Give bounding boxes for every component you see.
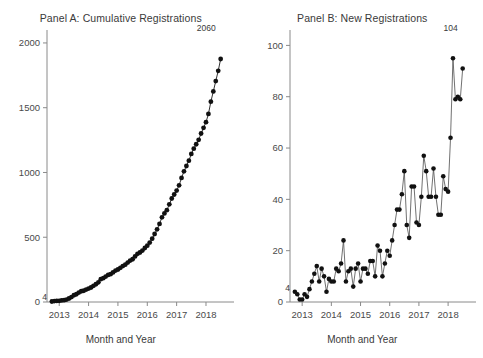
y-tick-label: 100	[267, 40, 283, 51]
data-point	[309, 279, 314, 284]
point-annotation: 2060	[197, 23, 216, 33]
data-point	[355, 261, 360, 266]
x-tick-label: 2013	[291, 309, 312, 320]
data-point	[150, 236, 155, 241]
data-point	[152, 232, 157, 237]
x-tick-label: 2018	[195, 309, 216, 320]
data-point	[201, 125, 206, 130]
data-point	[167, 202, 172, 207]
data-point	[213, 79, 218, 84]
panel-a-plot: 0500100015002000201320142015201620172018…	[0, 0, 241, 358]
x-tick-label: 2015	[349, 309, 370, 320]
y-tick-label: 80	[272, 91, 283, 102]
data-point	[164, 208, 169, 213]
data-point	[169, 196, 174, 201]
data-point	[353, 266, 358, 271]
data-point	[186, 158, 191, 163]
y-tick-label: 20	[272, 245, 283, 256]
panel-a: Panel A: Cumulative Registrations 050010…	[0, 0, 242, 358]
data-point	[204, 120, 209, 125]
data-point	[174, 188, 179, 193]
data-point	[199, 131, 204, 136]
data-point	[402, 169, 407, 174]
y-tick-label: 1000	[19, 167, 40, 178]
data-point	[382, 261, 387, 266]
data-point	[157, 222, 162, 227]
data-point	[387, 254, 392, 259]
data-point	[211, 89, 216, 94]
data-point	[421, 153, 426, 158]
data-point	[389, 238, 394, 243]
data-point	[404, 223, 409, 228]
data-point	[416, 223, 421, 228]
data-point	[179, 176, 184, 181]
data-point	[304, 295, 309, 300]
data-point	[206, 112, 211, 117]
data-point	[295, 292, 300, 297]
data-point	[431, 166, 436, 171]
data-point	[343, 279, 348, 284]
data-point	[392, 223, 397, 228]
point-annotation: 4	[42, 292, 47, 302]
data-point	[350, 284, 355, 289]
data-point	[380, 274, 385, 279]
data-point	[433, 194, 438, 199]
y-tick-label: 1500	[19, 102, 40, 113]
data-point	[218, 57, 223, 62]
data-point	[375, 243, 380, 248]
panel-a-xlabel: Month and Year	[0, 334, 242, 345]
data-point	[423, 169, 428, 174]
x-tick-label: 2015	[107, 309, 128, 320]
x-tick-label: 2016	[137, 309, 158, 320]
data-point	[377, 248, 382, 253]
y-tick-label: 2000	[19, 37, 40, 48]
data-point	[208, 99, 213, 104]
data-point	[457, 97, 462, 102]
data-point	[419, 194, 424, 199]
data-point	[299, 297, 304, 302]
data-point	[397, 207, 402, 212]
point-annotation: 4	[285, 283, 290, 293]
data-point	[307, 287, 312, 292]
data-point	[319, 266, 324, 271]
data-point	[385, 248, 390, 253]
data-point	[370, 259, 375, 264]
data-point	[216, 68, 221, 73]
data-point	[358, 279, 363, 284]
x-tick-label: 2017	[166, 309, 187, 320]
data-point	[406, 236, 411, 241]
x-tick-label: 2013	[49, 309, 70, 320]
x-tick-label: 2017	[408, 309, 429, 320]
data-point	[155, 227, 160, 232]
y-tick-label: 0	[277, 296, 282, 307]
x-tick-label: 2014	[78, 309, 99, 320]
data-point	[372, 274, 377, 279]
data-point	[428, 194, 433, 199]
data-point	[314, 264, 319, 269]
data-point	[365, 271, 370, 276]
x-tick-label: 2016	[379, 309, 400, 320]
data-point	[445, 189, 450, 194]
data-point	[331, 279, 336, 284]
series-line	[294, 58, 462, 299]
data-point	[182, 169, 187, 174]
data-point	[316, 279, 321, 284]
data-point	[411, 184, 416, 189]
y-tick-label: 0	[35, 296, 40, 307]
data-point	[460, 66, 465, 71]
panel-b-xlabel: Month and Year	[242, 334, 483, 345]
data-point	[184, 164, 189, 169]
figure-two-panel-registrations: Panel A: Cumulative Registrations 050010…	[0, 0, 483, 358]
data-point	[348, 266, 353, 271]
x-tick-label: 2018	[437, 309, 458, 320]
data-point	[338, 261, 343, 266]
panel-b-plot: 0204060801002013201420152016201720184104	[242, 0, 483, 358]
data-point	[440, 174, 445, 179]
series-line	[52, 59, 221, 301]
y-tick-label: 40	[272, 194, 283, 205]
data-point	[399, 192, 404, 197]
data-point	[312, 271, 317, 276]
panel-b: Panel B: New Registrations 0204060801002…	[242, 0, 483, 358]
x-tick-label: 2014	[320, 309, 341, 320]
data-point	[321, 274, 326, 279]
